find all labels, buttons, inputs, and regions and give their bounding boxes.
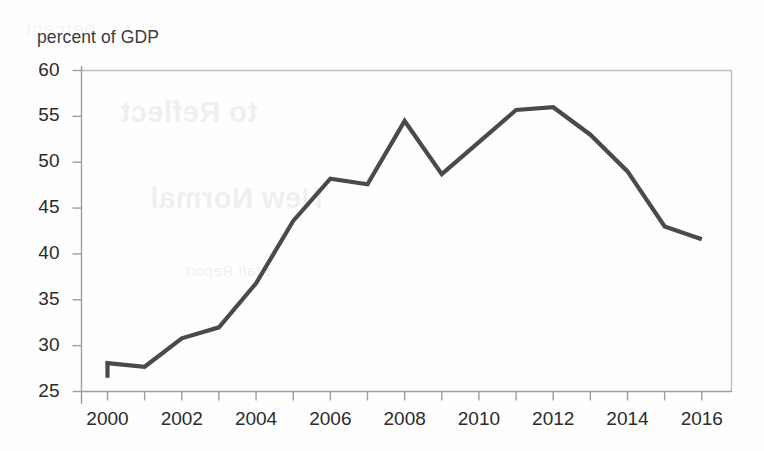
- y-tick-label: 30: [18, 334, 60, 356]
- x-tick-label: 2008: [370, 408, 440, 430]
- x-tick-label: 2012: [518, 408, 588, 430]
- plot-area: [0, 0, 764, 451]
- data-series-line: [108, 107, 702, 378]
- y-tick-label: 45: [18, 196, 60, 218]
- x-tick-label: 2010: [444, 408, 514, 430]
- axis-lines: [81, 66, 732, 404]
- y-tick-label: 60: [18, 59, 60, 81]
- x-axis-tick-marks: [108, 392, 702, 401]
- chart-figure: to Reflect New Normal Staff Report perce…: [0, 0, 764, 451]
- y-tick-label: 55: [18, 104, 60, 126]
- x-tick-label: 2016: [667, 408, 737, 430]
- y-tick-label: 35: [18, 288, 60, 310]
- y-tick-label: 25: [18, 380, 60, 402]
- x-tick-label: 2000: [73, 408, 143, 430]
- y-axis-tick-marks: [73, 71, 82, 392]
- y-axis-title: percent of GDP: [37, 27, 159, 48]
- x-tick-label: 2004: [221, 408, 291, 430]
- x-tick-label: 2006: [295, 408, 365, 430]
- x-tick-label: 2002: [147, 408, 217, 430]
- y-tick-label: 50: [18, 150, 60, 172]
- x-tick-label: 2014: [593, 408, 663, 430]
- y-tick-label: 40: [18, 242, 60, 264]
